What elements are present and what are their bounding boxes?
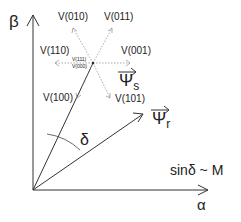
label-v101: V(101) bbox=[115, 94, 145, 104]
label-v000: V(000) bbox=[72, 64, 87, 69]
beta-axis bbox=[27, 15, 39, 190]
psi-s-label: Ψs bbox=[119, 72, 139, 92]
delta-angle-arc bbox=[47, 134, 80, 150]
psi-s-symbol: Ψ bbox=[119, 71, 133, 90]
delta-angle-label: δ bbox=[80, 132, 89, 148]
label-v001: V(001) bbox=[121, 46, 151, 56]
psi-r-label: Ψr bbox=[152, 110, 170, 130]
label-v110: V(110) bbox=[40, 46, 69, 56]
vector-diagram: β α V(010) V(011) V(110) V(001) V(100) V… bbox=[0, 0, 241, 222]
beta-axis-label: β bbox=[9, 13, 19, 30]
label-v011: V(011) bbox=[104, 12, 133, 22]
psi-r-subscript: r bbox=[166, 117, 170, 131]
label-v111: V(111) bbox=[72, 57, 86, 62]
alpha-axis bbox=[33, 185, 208, 195]
torque-relation-label: sinδ ~ M bbox=[170, 163, 223, 177]
arrowhead-v011-icon bbox=[108, 28, 112, 33]
psi-r-symbol: Ψ bbox=[152, 109, 166, 128]
alpha-axis-label: α bbox=[197, 197, 206, 212]
psi-s-subscript: s bbox=[133, 79, 139, 93]
diagram-graphics bbox=[0, 0, 241, 222]
hex-center-dot bbox=[92, 62, 94, 64]
psi-r-vector bbox=[33, 113, 143, 190]
label-v100: V(100) bbox=[43, 93, 73, 103]
label-v010: V(010) bbox=[58, 12, 88, 22]
